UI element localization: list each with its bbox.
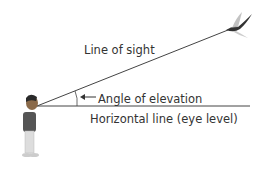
- angle-arc: [75, 91, 77, 106]
- angle-of-elevation-label: Angle of elevation: [98, 92, 202, 106]
- line-of-sight-label: Line of sight: [84, 43, 155, 57]
- horizontal-line-label: Horizontal line (eye level): [90, 112, 238, 126]
- diagram-canvas: [0, 0, 270, 171]
- arrow-icon: [80, 94, 96, 100]
- person-icon: [22, 95, 39, 157]
- bird-icon: [226, 12, 252, 38]
